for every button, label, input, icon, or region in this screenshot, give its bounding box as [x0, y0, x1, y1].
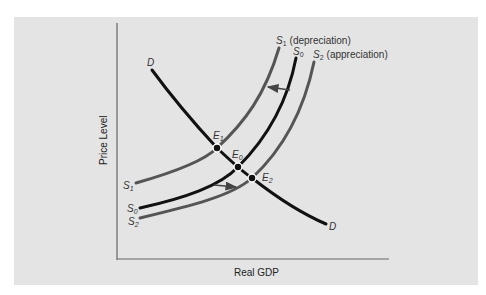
- s1-label-top: S1(depreciation): [276, 35, 351, 47]
- s2-label-left: S2: [128, 216, 139, 228]
- d-curve: [152, 70, 326, 224]
- x-axis-title: Real GDP: [234, 267, 279, 278]
- d-label-top: D: [147, 57, 154, 68]
- s1-curve: [136, 48, 279, 183]
- e2-point: [248, 174, 256, 182]
- s0-label-left: S0: [127, 203, 138, 215]
- d-label-bottom: D: [329, 221, 336, 232]
- s0-label-top: S0: [293, 46, 304, 58]
- e1-point: [213, 144, 221, 152]
- e1-label: E1: [213, 130, 224, 142]
- e2-label: E2: [262, 172, 273, 184]
- s1-label-left: S1: [123, 180, 134, 192]
- e0-label: E0: [232, 149, 243, 161]
- y-axis-title: Price Level: [98, 116, 109, 165]
- s2-label-top: S2(appreciation): [313, 49, 388, 61]
- chart-svg: Price Level Real GDP E1 E0 E2 D D S1 S0 …: [0, 0, 486, 295]
- e0-point: [234, 163, 242, 171]
- shift-right-arrow: [214, 185, 236, 187]
